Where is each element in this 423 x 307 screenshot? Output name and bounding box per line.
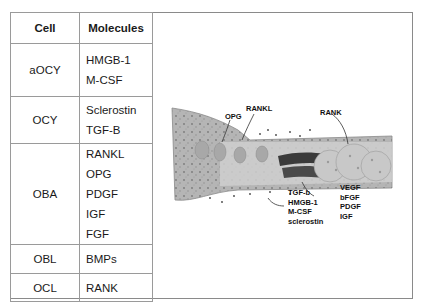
label-group-right: VEGF bFGF PDGF IGF xyxy=(340,183,361,221)
table-header-row: Cell Molecules xyxy=(11,13,153,44)
bone-tissue-graphic xyxy=(150,90,410,250)
header-cell: Cell xyxy=(11,13,80,44)
molecule-label: PDGF xyxy=(340,202,361,212)
molecule: TGF-B xyxy=(86,120,152,140)
cell-name: OCY xyxy=(11,97,80,144)
table-row: OCY Sclerostin TGF-B xyxy=(11,97,153,144)
label-group-left: TGF-b HMGB-1 M-CSF sclerostin xyxy=(288,188,323,226)
molecule-label: IGF xyxy=(340,212,361,222)
molecule-label: TGF-b xyxy=(288,188,323,198)
cell-name: OBA xyxy=(11,144,80,245)
table-row: OCL RANK xyxy=(11,274,153,302)
molecule-label: HMGB-1 xyxy=(288,198,323,208)
molecule: IGF xyxy=(86,204,152,224)
label-rankl: RANKL xyxy=(246,104,272,114)
molecule-list: HMGB-1 M-CSF xyxy=(80,44,153,97)
molecule: BMPs xyxy=(86,249,152,269)
cell-name: OCL xyxy=(11,274,80,302)
header-molecules: Molecules xyxy=(80,13,153,44)
molecule-label: sclerostin xyxy=(288,217,323,227)
molecule-list: RANK xyxy=(80,274,153,302)
molecule-list: Sclerostin TGF-B xyxy=(80,97,153,144)
molecule: Sclerostin xyxy=(86,100,152,120)
molecule-label: bFGF xyxy=(340,193,361,203)
molecule: RANK xyxy=(86,278,152,298)
table-row: OBA RANKL OPG PDGF IGF FGF xyxy=(11,144,153,245)
molecule: PDGF xyxy=(86,184,152,204)
cell-name: OBL xyxy=(11,245,80,274)
cell-molecule-table: Cell Molecules aOCY HMGB-1 M-CSF OCY Scl… xyxy=(10,12,153,302)
molecule: FGF xyxy=(86,224,152,244)
label-opg: OPG xyxy=(225,112,242,122)
bone-remodeling-illustration: RANKL OPG RANK TGF-b HMGB-1 M-CSF sclero… xyxy=(150,90,410,250)
table-row: aOCY HMGB-1 M-CSF xyxy=(11,44,153,97)
molecule: M-CSF xyxy=(86,70,152,90)
molecule-list: RANKL OPG PDGF IGF FGF xyxy=(80,144,153,245)
molecule: RANKL xyxy=(86,144,152,164)
molecule-label: M-CSF xyxy=(288,207,323,217)
table-row: OBL BMPs xyxy=(11,245,153,274)
molecule: HMGB-1 xyxy=(86,50,152,70)
cell-name: aOCY xyxy=(11,44,80,97)
molecule-list: BMPs xyxy=(80,245,153,274)
label-rank: RANK xyxy=(320,108,342,118)
molecule-label: VEGF xyxy=(340,183,361,193)
molecule: OPG xyxy=(86,164,152,184)
